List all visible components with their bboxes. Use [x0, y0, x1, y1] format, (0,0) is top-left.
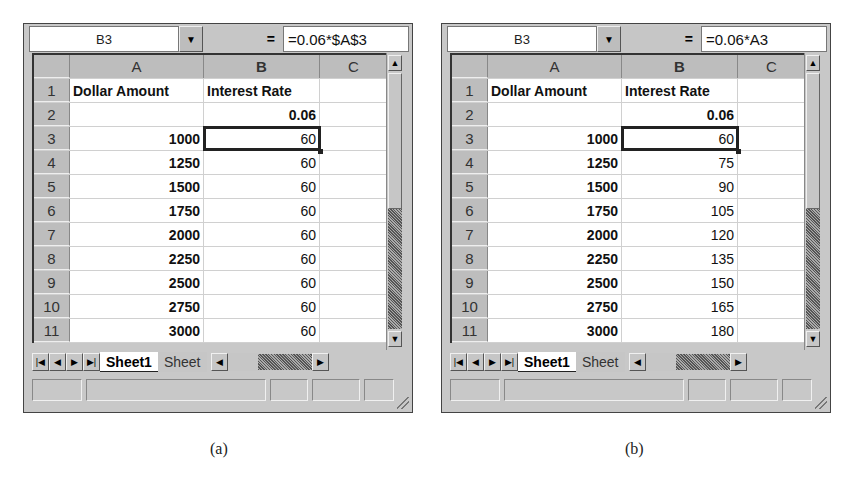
- cell-c[interactable]: [320, 199, 388, 222]
- next-sheet-button[interactable]: ▶: [484, 353, 501, 371]
- cell-b[interactable]: 135: [622, 247, 738, 270]
- row-header[interactable]: 9: [34, 271, 70, 294]
- cell-b[interactable]: 60: [204, 319, 320, 342]
- cell-b[interactable]: 60: [204, 127, 320, 150]
- horizontal-scrollbar[interactable]: ◀ ▶: [211, 353, 329, 371]
- first-sheet-button[interactable]: |◀: [450, 353, 467, 371]
- row-header[interactable]: 8: [34, 247, 70, 270]
- row-header[interactable]: 7: [34, 223, 70, 246]
- cell-c[interactable]: [320, 247, 388, 270]
- cell-a[interactable]: 2000: [70, 223, 204, 246]
- cell-c[interactable]: [320, 127, 388, 150]
- cell-c[interactable]: [320, 295, 388, 318]
- formula-input[interactable]: =0.06*$A$3: [283, 26, 409, 52]
- h-scroll-track[interactable]: [676, 354, 730, 370]
- cell-b[interactable]: 60: [204, 151, 320, 174]
- cell-a[interactable]: 1500: [70, 175, 204, 198]
- cell-a[interactable]: 3000: [70, 319, 204, 342]
- cell-b[interactable]: 75: [622, 151, 738, 174]
- row-header[interactable]: 9: [452, 271, 488, 294]
- row-header[interactable]: 1: [452, 79, 488, 102]
- name-box-dropdown-button[interactable]: ▼: [179, 26, 203, 52]
- row-header[interactable]: 6: [34, 199, 70, 222]
- prev-sheet-button[interactable]: ◀: [49, 353, 66, 371]
- cell-c[interactable]: [738, 103, 806, 126]
- cell-b[interactable]: 165: [622, 295, 738, 318]
- resize-grip-icon[interactable]: [815, 397, 827, 409]
- cell-a[interactable]: 1250: [488, 151, 622, 174]
- select-all-corner[interactable]: [34, 55, 70, 78]
- cell-b[interactable]: 90: [622, 175, 738, 198]
- cell-c[interactable]: [320, 223, 388, 246]
- cell-b[interactable]: 60: [204, 175, 320, 198]
- edit-formula-button[interactable]: =: [621, 26, 701, 52]
- scroll-right-button[interactable]: ▶: [312, 353, 329, 371]
- cell-b[interactable]: 60: [204, 295, 320, 318]
- column-header-c[interactable]: C: [320, 55, 388, 78]
- h-scroll-thumb[interactable]: [228, 353, 258, 371]
- row-header[interactable]: 3: [34, 127, 70, 150]
- cell-a[interactable]: 1500: [488, 175, 622, 198]
- row-header[interactable]: 6: [452, 199, 488, 222]
- row-header[interactable]: 1: [34, 79, 70, 102]
- formula-input[interactable]: =0.06*A3: [701, 26, 827, 52]
- column-header-c[interactable]: C: [738, 55, 806, 78]
- cell-a[interactable]: [488, 103, 622, 126]
- h-scroll-track[interactable]: [258, 354, 312, 370]
- cell-c[interactable]: [738, 319, 806, 342]
- column-header-a[interactable]: A: [70, 55, 204, 78]
- cell-b[interactable]: 150: [622, 271, 738, 294]
- cell-c[interactable]: [738, 79, 806, 102]
- cell-c[interactable]: [320, 175, 388, 198]
- cell-c[interactable]: [320, 271, 388, 294]
- cell-b[interactable]: Interest Rate: [622, 79, 738, 102]
- tab-sheet1[interactable]: Sheet1: [100, 352, 158, 372]
- row-header[interactable]: 8: [452, 247, 488, 270]
- cell-a[interactable]: 3000: [488, 319, 622, 342]
- column-header-a[interactable]: A: [488, 55, 622, 78]
- cell-a[interactable]: 2750: [70, 295, 204, 318]
- last-sheet-button[interactable]: ▶|: [501, 353, 518, 371]
- scroll-track[interactable]: [388, 209, 402, 329]
- scroll-down-button[interactable]: ▼: [806, 331, 820, 347]
- cell-b[interactable]: 60: [204, 199, 320, 222]
- cell-c[interactable]: [738, 199, 806, 222]
- scroll-up-button[interactable]: ▲: [806, 55, 820, 71]
- cell-a[interactable]: 2500: [488, 271, 622, 294]
- scroll-left-button[interactable]: ◀: [211, 353, 228, 371]
- scroll-track[interactable]: [806, 209, 820, 329]
- tab-sheet2[interactable]: Sheet: [576, 352, 625, 372]
- edit-formula-button[interactable]: =: [203, 26, 283, 52]
- cell-b[interactable]: 120: [622, 223, 738, 246]
- cell-b[interactable]: Interest Rate: [204, 79, 320, 102]
- row-header[interactable]: 2: [452, 103, 488, 126]
- select-all-corner[interactable]: [452, 55, 488, 78]
- cell-a[interactable]: 1750: [70, 199, 204, 222]
- cell-a[interactable]: 2500: [70, 271, 204, 294]
- row-header[interactable]: 4: [34, 151, 70, 174]
- cell-b[interactable]: 105: [622, 199, 738, 222]
- row-header[interactable]: 2: [34, 103, 70, 126]
- row-header[interactable]: 4: [452, 151, 488, 174]
- cell-c[interactable]: [738, 223, 806, 246]
- vertical-scrollbar[interactable]: ▲ ▼: [804, 53, 821, 350]
- tab-sheet2[interactable]: Sheet: [158, 352, 207, 372]
- resize-grip-icon[interactable]: [397, 397, 409, 409]
- last-sheet-button[interactable]: ▶|: [83, 353, 100, 371]
- cell-c[interactable]: [320, 151, 388, 174]
- row-header[interactable]: 5: [452, 175, 488, 198]
- name-box[interactable]: B3: [447, 26, 597, 52]
- row-header[interactable]: 11: [452, 319, 488, 342]
- column-header-b[interactable]: B: [204, 55, 320, 78]
- cell-a[interactable]: 2250: [488, 247, 622, 270]
- cell-c[interactable]: [738, 127, 806, 150]
- name-box[interactable]: B3: [29, 26, 179, 52]
- row-header[interactable]: 10: [452, 295, 488, 318]
- next-sheet-button[interactable]: ▶: [66, 353, 83, 371]
- cell-c[interactable]: [738, 271, 806, 294]
- prev-sheet-button[interactable]: ◀: [467, 353, 484, 371]
- cell-a[interactable]: 2000: [488, 223, 622, 246]
- cell-a[interactable]: Dollar Amount: [488, 79, 622, 102]
- cell-b[interactable]: 0.06: [622, 103, 738, 126]
- scroll-down-button[interactable]: ▼: [388, 331, 402, 347]
